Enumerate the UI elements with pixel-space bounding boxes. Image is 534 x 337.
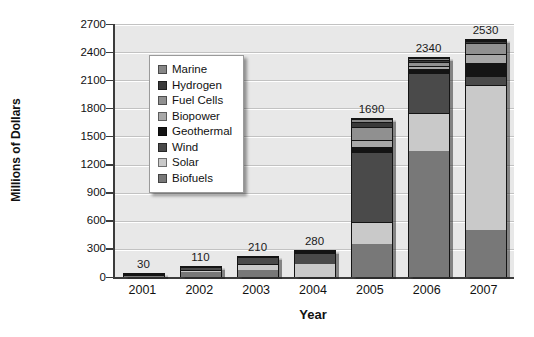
- x-tick-label-2004: 2004: [285, 283, 342, 297]
- bar-2007: [465, 39, 507, 277]
- y-tick-label: 300: [58, 242, 106, 255]
- legend-item-solar: Solar: [158, 156, 232, 169]
- y-tick-mark: [106, 108, 114, 110]
- legend-item-marine: Marine: [158, 63, 232, 76]
- legend-item-geothermal: Geothermal: [158, 125, 232, 138]
- y-tick-mark: [106, 220, 114, 222]
- chart-figure: Millions of Dollars 30110210280169023402…: [0, 0, 534, 337]
- y-tick-mark: [106, 277, 114, 279]
- bar-2001: [123, 273, 165, 277]
- legend-label: Geothermal: [172, 125, 232, 138]
- legend-label: Hydrogen: [172, 79, 222, 92]
- bar-segment-biofuels: [124, 276, 164, 277]
- bar-slot-2007: 2530: [457, 24, 514, 277]
- bar-segment-biopower: [352, 140, 392, 147]
- y-tick-label: 1500: [58, 130, 106, 143]
- legend-item-fuel-cells: Fuel Cells: [158, 94, 232, 107]
- legend-box: MarineHydrogenFuel CellsBiopowerGeotherm…: [149, 55, 244, 193]
- bar-segment-geothermal: [466, 63, 506, 75]
- x-axis-labels: 2001200220032004200520062007: [114, 283, 512, 297]
- bar-2003: [237, 256, 279, 277]
- legend-label: Solar: [172, 156, 199, 169]
- bar-segment-biofuels: [352, 244, 392, 277]
- legend-item-biofuels: Biofuels: [158, 172, 232, 185]
- y-tick-mark: [106, 24, 114, 26]
- legend-label: Biopower: [172, 110, 220, 123]
- y-tick-mark: [106, 52, 114, 54]
- legend-label: Biofuels: [172, 172, 213, 185]
- legend-item-biopower: Biopower: [158, 110, 232, 123]
- bar-segment-fuel-cells: [466, 43, 506, 54]
- legend-swatch-hydrogen: [158, 81, 167, 90]
- bar-value-label: 210: [229, 241, 286, 253]
- y-tick-label: 1800: [58, 102, 106, 115]
- y-tick-mark: [106, 192, 114, 194]
- y-tick-label: 0: [58, 271, 106, 284]
- bar-value-label: 2530: [457, 24, 514, 36]
- legend-label: Marine: [172, 63, 207, 76]
- legend-label: Wind: [172, 141, 198, 154]
- legend-swatch-biofuels: [158, 174, 167, 183]
- bar-2005: [351, 118, 393, 277]
- bar-segment-wind: [352, 152, 392, 221]
- legend-swatch-fuel-cells: [158, 96, 167, 105]
- y-tick-label: 900: [58, 186, 106, 199]
- bar-value-label: 280: [286, 235, 343, 247]
- y-tick-mark: [106, 248, 114, 250]
- bar-segment-solar: [466, 85, 506, 230]
- bar-segment-biofuels: [466, 230, 506, 277]
- bar-segment-solar: [295, 264, 335, 277]
- bar-2006: [408, 57, 450, 277]
- bar-segment-solar: [352, 222, 392, 244]
- bar-segment-wind: [409, 73, 449, 113]
- legend-swatch-wind: [158, 143, 167, 152]
- x-tick-label-2001: 2001: [114, 283, 171, 297]
- legend-swatch-biopower: [158, 112, 167, 121]
- x-axis-title: Year: [114, 307, 512, 322]
- bar-value-label: 110: [172, 251, 229, 263]
- y-tick-mark: [106, 80, 114, 82]
- x-tick-label-2006: 2006: [398, 283, 455, 297]
- bar-value-label: 30: [115, 258, 172, 270]
- bar-segment-wind: [295, 253, 335, 264]
- x-tick-label-2005: 2005: [341, 283, 398, 297]
- legend-label: Fuel Cells: [172, 94, 223, 107]
- bar-segment-fuel-cells: [352, 127, 392, 140]
- y-tick-label: 2400: [58, 46, 106, 59]
- legend-swatch-solar: [158, 158, 167, 167]
- y-tick-mark: [106, 164, 114, 166]
- bar-2002: [180, 266, 222, 277]
- bar-value-label: 2340: [400, 42, 457, 54]
- y-tick-mark: [106, 136, 114, 138]
- plot-area: 30110210280169023402530 MarineHydrogenFu…: [113, 24, 514, 279]
- bar-2004: [294, 250, 336, 277]
- y-tick-label: 1200: [58, 158, 106, 171]
- bar-slot-2004: 280: [286, 24, 343, 277]
- x-tick-label-2002: 2002: [171, 283, 228, 297]
- y-tick-label: 2100: [58, 74, 106, 87]
- y-tick-label: 2700: [58, 18, 106, 31]
- legend-swatch-marine: [158, 65, 167, 74]
- bar-segment-biofuels: [409, 151, 449, 278]
- bar-segment-biofuels: [181, 272, 221, 277]
- y-axis-title: Millions of Dollars: [9, 98, 23, 201]
- bar-segment-solar: [409, 113, 449, 150]
- bar-slot-2006: 2340: [400, 24, 457, 277]
- bar-segment-biofuels: [238, 270, 278, 277]
- bar-value-label: 1690: [343, 103, 400, 115]
- x-tick-label-2003: 2003: [228, 283, 285, 297]
- legend-item-wind: Wind: [158, 141, 232, 154]
- legend-swatch-geothermal: [158, 127, 167, 136]
- legend-item-hydrogen: Hydrogen: [158, 79, 232, 92]
- x-tick-label-2007: 2007: [455, 283, 512, 297]
- bar-segment-wind: [466, 76, 506, 85]
- bar-segment-biopower: [466, 54, 506, 63]
- y-tick-label: 600: [58, 214, 106, 227]
- bar-slot-2005: 1690: [343, 24, 400, 277]
